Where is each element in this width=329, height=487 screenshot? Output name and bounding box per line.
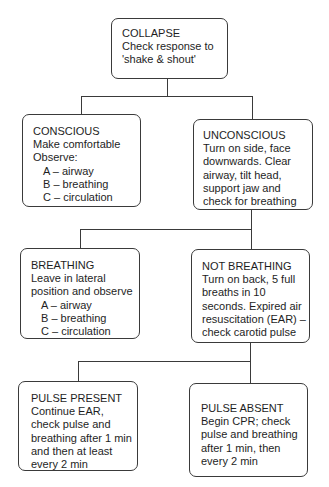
node-pulse-present: PULSE PRESENT Continue EAR, check pulse … xyxy=(18,381,138,471)
node-text: after 1 min, then xyxy=(201,442,307,455)
node-text: Begin CPR; check xyxy=(201,415,307,428)
node-text: airway, tilt head, xyxy=(203,169,312,182)
node-text: Turn on back, 5 full xyxy=(202,273,309,286)
node-text: Make comfortable xyxy=(33,138,140,151)
node-text: seconds. Expired air xyxy=(202,300,309,313)
node-text: position and observe xyxy=(31,285,139,298)
node-text: Continue EAR, xyxy=(31,405,137,418)
node-text: Turn on side, face xyxy=(203,142,312,155)
node-text: check carotid pulse xyxy=(202,326,309,339)
node-text: check pulse and xyxy=(31,418,137,431)
abc-item-airway: A – airway xyxy=(33,165,140,178)
node-text: Observe: xyxy=(33,151,140,164)
node-title: NOT BREATHING xyxy=(202,260,309,273)
node-title: COLLAPSE xyxy=(122,27,227,40)
connector-to-pulse-present xyxy=(78,361,79,381)
node-text: every 2 min xyxy=(201,455,307,468)
connector-collapse-branch xyxy=(81,96,253,97)
abc-item-airway: A – airway xyxy=(31,299,139,312)
connector-not-breathing-branch xyxy=(78,361,251,362)
node-not-breathing: NOT BREATHING Turn on back, 5 full breat… xyxy=(191,249,310,343)
connector-to-conscious xyxy=(81,96,82,114)
node-collapse: COLLAPSE Check response to 'shake & shou… xyxy=(111,18,228,79)
abc-item-breathing: B – breathing xyxy=(33,178,140,191)
abc-item-circulation: C – circulation xyxy=(31,325,139,338)
node-title: UNCONSCIOUS xyxy=(203,129,312,142)
node-pulse-absent: PULSE ABSENT Begin CPR; check pulse and … xyxy=(189,383,308,477)
node-text: support jaw and xyxy=(203,182,312,195)
connector-to-unconscious xyxy=(252,96,253,119)
node-text: resuscitation (EAR) – xyxy=(202,313,309,326)
node-text: check for breathing xyxy=(203,195,312,208)
connector-not-breathing-stem xyxy=(250,342,251,383)
abc-item-breathing: B – breathing xyxy=(31,312,139,325)
node-text: and then at least xyxy=(31,445,137,458)
node-text: pulse and breathing xyxy=(201,428,307,441)
node-text: every 2 min xyxy=(31,458,137,471)
node-title: PULSE ABSENT xyxy=(201,402,307,415)
node-breathing: BREATHING Leave in lateral position and … xyxy=(20,248,140,339)
node-conscious: CONSCIOUS Make comfortable Observe: A – … xyxy=(22,114,141,207)
connector-collapse-stem xyxy=(167,78,168,96)
node-unconscious: UNCONSCIOUS Turn on side, face downwards… xyxy=(193,119,313,210)
node-title: BREATHING xyxy=(31,259,139,272)
node-text: breathing after 1 min xyxy=(31,432,137,445)
node-text: breaths in 10 xyxy=(202,286,309,299)
node-text: downwards. Clear xyxy=(203,155,312,168)
node-text: 'shake & shout' xyxy=(122,53,227,66)
abc-item-circulation: C – circulation xyxy=(33,191,140,204)
node-text: Leave in lateral xyxy=(31,272,139,285)
node-title: PULSE PRESENT xyxy=(31,392,137,405)
connector-unconscious-branch xyxy=(80,229,252,230)
node-text: Check response to xyxy=(122,40,227,53)
connector-to-breathing xyxy=(80,229,81,248)
node-title: CONSCIOUS xyxy=(33,125,140,138)
